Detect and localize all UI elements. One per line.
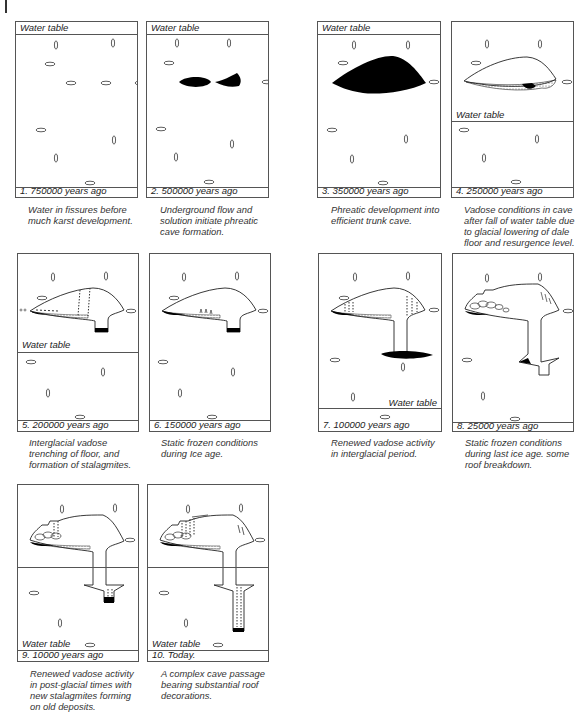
caption-10: A complex cave passage bearing substanti… <box>161 668 265 701</box>
water-table-label: Water table <box>318 22 440 35</box>
phreatic-cave-drawing <box>318 22 441 198</box>
stage-label: 9. 10000 years ago <box>22 649 103 661</box>
caption-line: decorations. <box>161 690 265 701</box>
caption-line: Renewed vadose activity <box>30 668 134 679</box>
caption-line: A complex cave passage <box>161 668 265 679</box>
caption-line: during last ice age. some <box>465 448 569 459</box>
caption-line: roof breakdown. <box>465 459 569 470</box>
caption-2: Underground flow and solution initiate p… <box>160 204 258 237</box>
caption-line: after fall of water table due <box>464 215 574 226</box>
fissures-drawing <box>16 22 138 198</box>
stage-label: 2. 500000 years ago <box>151 185 238 197</box>
water-table-label: Water table <box>456 109 504 121</box>
caption-line: Renewed vadose activity <box>331 437 435 448</box>
water-table-line <box>18 352 138 353</box>
stage-label: 3. 350000 years ago <box>322 185 409 197</box>
caption-line: Static frozen conditions <box>465 437 569 448</box>
caption-8: Static frozen conditions during last ice… <box>465 437 569 470</box>
post-glacial-drawing <box>18 485 139 662</box>
water-table-line <box>452 121 573 122</box>
caption-3: Phreatic development into efficient trun… <box>331 204 439 226</box>
stage-label: 6. 150000 years ago <box>154 419 241 431</box>
panel-3: Water table 3. 350000 years ago <box>317 21 441 198</box>
caption-line: Underground flow and <box>160 204 258 215</box>
initial-cave-drawing <box>147 22 269 198</box>
last-ice-age-drawing <box>453 254 574 432</box>
panel-1: Water table 1. 750000 years ago <box>15 21 138 198</box>
caption-9: Renewed vadose activity in post-glacial … <box>30 668 134 712</box>
caption-line: during Ice age. <box>161 448 258 459</box>
panel-7: Water table 7. 100000 years ago <box>318 253 442 432</box>
panel-8: 8. 25000 years ago <box>452 253 574 432</box>
caption-line: in post-glacial times with <box>30 679 134 690</box>
caption-line: Static frozen conditions <box>161 437 258 448</box>
water-table-line-old <box>18 567 138 568</box>
panel-9: Water table 9. 10000 years ago <box>17 484 139 662</box>
caption-4: Vadose conditions in cave after fall of … <box>464 204 574 248</box>
stage-label: 8. 25000 years ago <box>457 420 538 432</box>
caption-line: much karst development. <box>28 215 133 226</box>
caption-line: on old deposits. <box>30 701 134 712</box>
water-table-label: Water table <box>16 22 137 35</box>
stage-label: 4. 250000 years ago <box>456 185 543 197</box>
caption-line: Phreatic development into <box>331 204 439 215</box>
stage-label: 10. Today. <box>152 649 195 661</box>
caption-line: formation of stalagmites. <box>29 459 131 470</box>
panel-5: Water table 5. 200000 years ago <box>17 253 139 432</box>
panel-4: Water table 4. 250000 years ago <box>451 21 574 198</box>
water-table-line <box>319 408 441 409</box>
caption-line: in interglacial period. <box>331 448 435 459</box>
caption-line: solution initiate phreatic <box>160 215 258 226</box>
caption-6: Static frozen conditions during Ice age. <box>161 437 258 459</box>
page-edge-mark <box>5 0 7 13</box>
water-table-line-old <box>148 567 268 568</box>
water-table-label: Water table <box>22 339 70 351</box>
caption-line: trenching of floor, and <box>29 448 131 459</box>
caption-1: Water in fissures before much karst deve… <box>28 204 133 226</box>
today-cave-drawing <box>148 485 269 662</box>
panel-10: Water table 10. Today. <box>147 484 269 662</box>
caption-line: new stalagmites forming <box>30 690 134 701</box>
panel-6: 6. 150000 years ago <box>149 253 271 432</box>
caption-line: bearing substantial roof <box>161 679 265 690</box>
stage-label: 5. 200000 years ago <box>22 419 109 431</box>
caption-5: Interglacial vadose trenching of floor, … <box>29 437 131 470</box>
water-table-label: Water table <box>147 22 268 35</box>
caption-line: efficient trunk cave. <box>331 215 439 226</box>
caption-line: floor and resurgence level. <box>464 237 574 248</box>
frozen-cave-drawing <box>150 254 271 432</box>
panel-2: Water table 2. 500000 years ago <box>146 21 269 198</box>
caption-line: to glacial lowering of dale <box>464 226 574 237</box>
caption-line: Interglacial vadose <box>29 437 131 448</box>
caption-line: cave formation. <box>160 226 258 237</box>
stage-label: 7. 100000 years ago <box>323 419 410 431</box>
caption-line: Vadose conditions in cave <box>464 204 574 215</box>
caption-7: Renewed vadose activity in interglacial … <box>331 437 435 459</box>
caption-line: Water in fissures before <box>28 204 133 215</box>
stage-label: 1. 750000 years ago <box>20 185 107 197</box>
